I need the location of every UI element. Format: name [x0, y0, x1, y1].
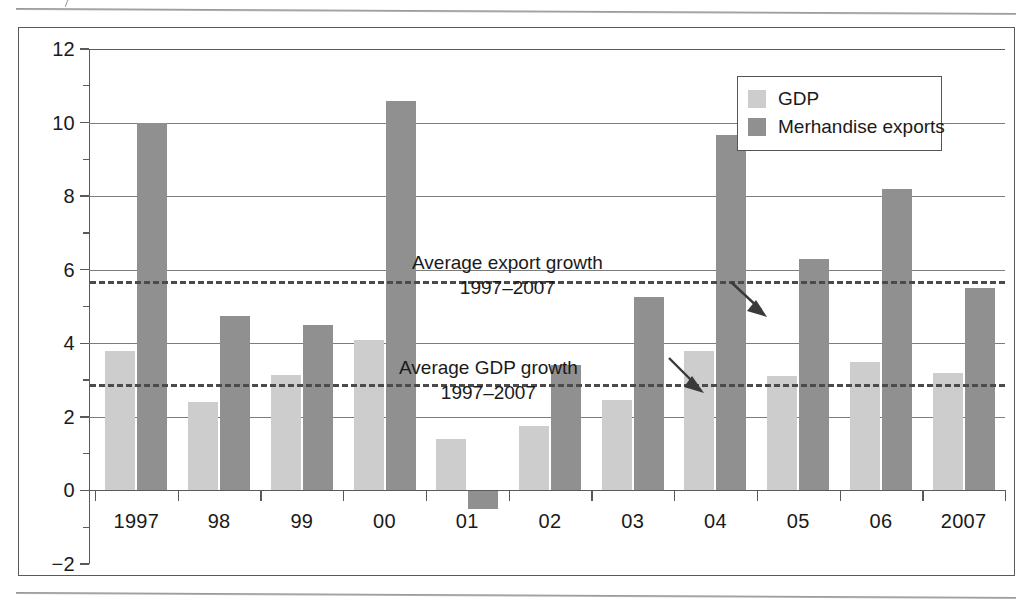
bar-exports-01[interactable]	[468, 490, 498, 508]
annotation-average-gdp-growth: Average GDP growth 1997–2007	[399, 355, 578, 405]
annotation-gdp-line2: 1997–2007	[399, 380, 578, 405]
x-tick-end	[1005, 490, 1006, 501]
chart-frame: 121086420−2 19979899000102030405062007 G…	[18, 27, 1015, 576]
y-tick-2	[80, 416, 89, 417]
bar-group-01	[426, 49, 509, 564]
bar-group-03	[591, 49, 674, 564]
y-tick-minor-5	[83, 306, 89, 307]
legend-label-merchandise-exports: Merhandise exports	[778, 116, 945, 138]
y-tick-label-6: 6	[64, 258, 75, 281]
bar-group-99	[260, 49, 343, 564]
bar-gdp-98[interactable]	[188, 402, 218, 490]
y-axis-line	[89, 49, 90, 564]
x-tick-label-2007: 2007	[941, 510, 987, 533]
x-tick-label-01: 01	[456, 510, 479, 533]
bar-exports-04[interactable]	[716, 135, 746, 490]
bar-gdp-04[interactable]	[684, 351, 714, 491]
y-tick-minor-7	[83, 232, 89, 233]
y-tick-minor-9	[83, 159, 89, 160]
x-tick-01	[426, 490, 427, 501]
y-tick-minor-11	[83, 85, 89, 86]
bar-gdp-1997[interactable]	[105, 351, 135, 491]
legend[interactable]: GDP Merhandise exports	[737, 76, 942, 151]
annotation-export-line2: 1997–2007	[412, 275, 603, 300]
x-tick-label-04: 04	[704, 510, 727, 533]
x-tick-02	[509, 490, 510, 501]
bar-group-1997	[95, 49, 178, 564]
legend-swatch-gdp-icon	[748, 90, 766, 108]
chart-page: 121086420−2 19979899000102030405062007 G…	[0, 0, 1034, 608]
x-tick-1997	[95, 490, 96, 501]
bar-exports-06[interactable]	[882, 189, 912, 491]
annotation-gdp-line1: Average GDP growth	[399, 355, 578, 380]
x-tick-00	[343, 490, 344, 501]
x-tick-label-02: 02	[539, 510, 562, 533]
bar-gdp-2007[interactable]	[933, 373, 963, 491]
bar-gdp-03[interactable]	[602, 400, 632, 490]
bar-group-02	[509, 49, 592, 564]
page-rule-bottom	[16, 592, 1016, 599]
y-tick-10	[80, 122, 89, 123]
x-tick-06	[840, 490, 841, 501]
y-tick-6	[80, 269, 89, 270]
bar-gdp-01[interactable]	[436, 439, 466, 491]
x-tick-03	[591, 490, 592, 501]
x-tick-99	[260, 490, 261, 501]
legend-item-merchandise-exports[interactable]: Merhandise exports	[748, 113, 931, 141]
x-tick-label-98: 98	[208, 510, 231, 533]
x-tick-04	[674, 490, 675, 501]
y-tick-label-8: 8	[64, 185, 75, 208]
x-tick-label-06: 06	[869, 510, 892, 533]
y-tick-minor-3	[83, 379, 89, 380]
legend-item-gdp[interactable]: GDP	[748, 85, 931, 113]
bar-exports-99[interactable]	[303, 325, 333, 491]
y-tick-label-10: 10	[52, 111, 75, 134]
annotation-average-export-growth: Average export growth 1997–2007	[412, 250, 603, 300]
y-tick-0	[80, 490, 89, 491]
bar-exports-2007[interactable]	[965, 288, 995, 490]
y-tick-4	[80, 343, 89, 344]
bar-exports-03[interactable]	[634, 297, 664, 490]
bar-group-98	[178, 49, 261, 564]
y-tick-12	[80, 48, 89, 49]
x-tick-05	[757, 490, 758, 501]
y-tick--2	[80, 563, 89, 564]
x-tick-label-03: 03	[621, 510, 644, 533]
bar-gdp-99[interactable]	[271, 375, 301, 491]
y-tick-minor--1	[83, 527, 89, 528]
bar-gdp-00[interactable]	[354, 340, 384, 491]
bar-gdp-06[interactable]	[850, 362, 880, 491]
legend-swatch-exports-icon	[748, 118, 766, 136]
y-tick-label-4: 4	[64, 332, 75, 355]
x-tick-2007	[922, 490, 923, 501]
bar-exports-98[interactable]	[220, 316, 250, 491]
y-tick-8	[80, 195, 89, 196]
x-tick-98	[178, 490, 179, 501]
x-tick-label-00: 00	[373, 510, 396, 533]
page-rule-top	[16, 8, 1016, 15]
annotation-export-line1: Average export growth	[412, 250, 603, 275]
y-tick-label-2: 2	[64, 405, 75, 428]
y-tick-label-0: 0	[64, 479, 75, 502]
x-axis-line	[89, 490, 1005, 491]
legend-label-gdp: GDP	[778, 88, 819, 110]
y-tick-label--2: −2	[52, 553, 75, 576]
bar-group-00	[343, 49, 426, 564]
x-tick-label-05: 05	[787, 510, 810, 533]
bar-gdp-05[interactable]	[767, 376, 797, 490]
bar-exports-1997[interactable]	[137, 123, 167, 491]
y-tick-label-12: 12	[52, 38, 75, 61]
bar-exports-05[interactable]	[799, 259, 829, 491]
x-tick-label-1997: 1997	[114, 510, 160, 533]
bar-gdp-02[interactable]	[519, 426, 549, 490]
y-tick-minor-1	[83, 453, 89, 454]
x-tick-label-99: 99	[290, 510, 313, 533]
